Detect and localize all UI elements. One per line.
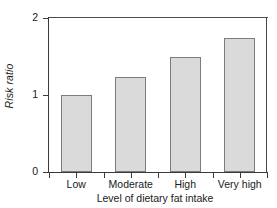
x-tick-label-moderate: Moderate <box>104 178 159 190</box>
y-tick-label-1: 1 <box>16 89 38 100</box>
x-tick-label-high: High <box>158 178 213 190</box>
x-tick-label-low: Low <box>49 178 104 190</box>
x-axis-title: Level of dietary fat intake <box>40 192 270 204</box>
x-tick-boundary-4 <box>267 173 268 178</box>
x-tick-boundary-1 <box>104 173 105 178</box>
y-tick-label-0: 0 <box>16 166 38 177</box>
bar-chart-figure: Risk ratio 2 1 0 LowModerateHighVery hig… <box>0 0 277 208</box>
x-tick-boundary-0 <box>49 173 50 178</box>
y-axis-title: Risk ratio <box>0 0 18 172</box>
x-tick-label-very-high: Very high <box>213 178 268 190</box>
y-axis-title-text: Risk ratio <box>3 64 15 109</box>
plot-area <box>49 18 267 172</box>
x-tick-boundary-3 <box>213 173 214 178</box>
bar-moderate <box>115 77 146 172</box>
y-tick-label-2: 2 <box>16 12 38 23</box>
bar-very-high <box>224 38 255 172</box>
bar-high <box>170 57 201 172</box>
bar-low <box>61 95 92 172</box>
x-tick-boundary-2 <box>158 173 159 178</box>
